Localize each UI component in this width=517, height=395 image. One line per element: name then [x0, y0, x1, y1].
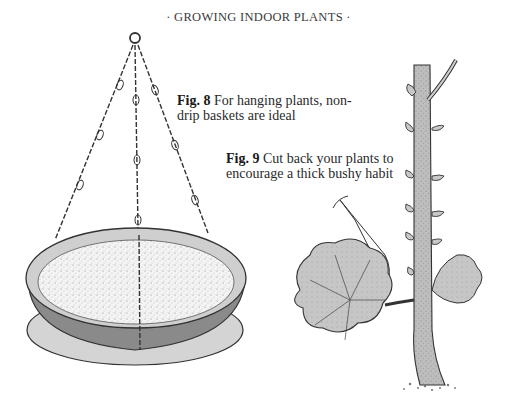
- pruning-stem-illustration: [295, 60, 482, 391]
- large-leaf: [295, 239, 392, 332]
- small-leaf: [432, 255, 482, 303]
- basket-soil: [38, 240, 234, 324]
- illustrations: [0, 0, 517, 395]
- main-stem: [414, 65, 445, 385]
- hook-ring-icon: [130, 33, 140, 43]
- hanging-basket-illustration: [26, 33, 246, 365]
